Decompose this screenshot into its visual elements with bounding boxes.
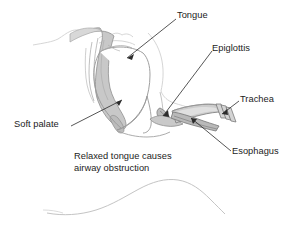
hard-and-soft-palate-shape: [82, 28, 126, 129]
esophagus-leader-line: [191, 118, 231, 151]
pharyngeal-floor-curve: [118, 131, 170, 137]
neck-contour-group: [43, 179, 225, 214]
caption-obstruction: Relaxed tongue causes airway obstruction: [74, 151, 194, 174]
label-trachea: Trachea: [240, 94, 274, 106]
neck-short-accent: [43, 210, 63, 213]
palate-inner-fold-2: [89, 42, 94, 101]
label-esophagus: Esophagus: [232, 146, 279, 158]
tongue-leader-line: [127, 19, 176, 58]
label-tongue: Tongue: [177, 10, 208, 22]
airway-anatomy-figure: Tongue Epiglottis Trachea Esophagus Soft…: [0, 0, 291, 227]
caption-line-2: airway obstruction: [74, 163, 149, 173]
neck-chin-curve: [47, 179, 225, 214]
anatomy-drawing: [0, 0, 291, 227]
cheek-outline: [148, 33, 163, 91]
tongue-base-curve: [143, 96, 151, 133]
label-epiglottis: Epiglottis: [212, 43, 250, 55]
caption-line-1: Relaxed tongue causes: [74, 151, 172, 161]
label-soft-palate: Soft palate: [14, 119, 59, 131]
